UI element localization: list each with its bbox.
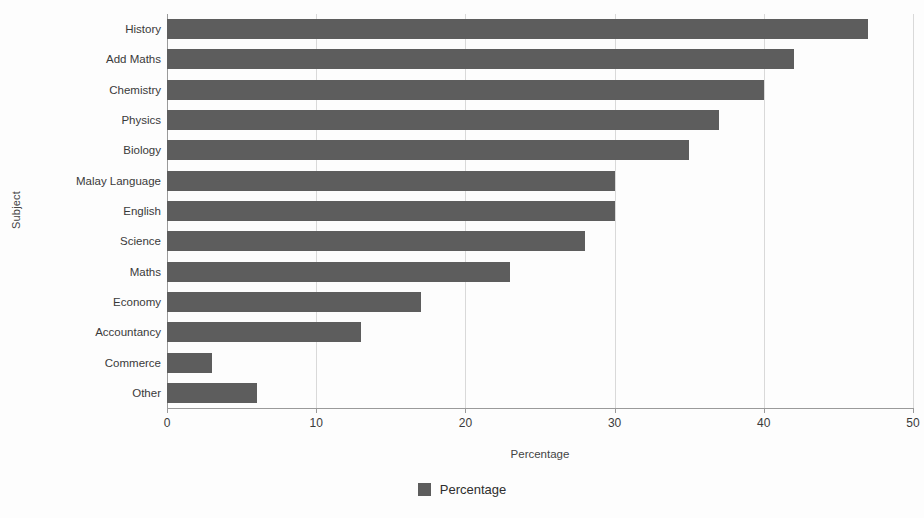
chart-legend: Percentage	[0, 482, 924, 497]
x-axis-title: Percentage	[167, 448, 913, 460]
x-tick-label: 0	[164, 416, 171, 430]
gridline-50	[913, 14, 914, 408]
bar-commerce[interactable]	[167, 353, 913, 373]
y-axis-label-history: History	[28, 23, 161, 35]
y-axis-label-malay-language: Malay Language	[28, 175, 161, 187]
y-axis-label-biology: Biology	[28, 144, 161, 156]
x-tick-mark	[167, 408, 168, 413]
bar-fill	[167, 19, 868, 39]
bar-english[interactable]	[167, 201, 913, 221]
bar-fill	[167, 201, 615, 221]
y-axis-label-english: English	[28, 205, 161, 217]
y-axis-label-economy: Economy	[28, 296, 161, 308]
y-axis-label-science: Science	[28, 235, 161, 247]
bar-series	[167, 14, 913, 408]
x-tick-label: 30	[608, 416, 621, 430]
x-tick-label: 50	[906, 416, 919, 430]
bar-malay-language[interactable]	[167, 171, 913, 191]
y-axis-label-add-maths: Add Maths	[28, 53, 161, 65]
y-axis-label-chemistry: Chemistry	[28, 84, 161, 96]
y-axis-label-physics: Physics	[28, 114, 161, 126]
bar-fill	[167, 292, 421, 312]
x-tick-mark	[316, 408, 317, 413]
y-axis-label-maths: Maths	[28, 266, 161, 278]
bar-maths[interactable]	[167, 262, 913, 282]
bar-fill	[167, 231, 585, 251]
bar-physics[interactable]	[167, 110, 913, 130]
bar-fill	[167, 262, 510, 282]
x-tick-mark	[913, 408, 914, 413]
bar-accountancy[interactable]	[167, 322, 913, 342]
bar-chemistry[interactable]	[167, 80, 913, 100]
x-axis-ticks: 01020304050	[167, 408, 913, 438]
bar-fill	[167, 353, 212, 373]
x-tick-mark	[465, 408, 466, 413]
legend-swatch-percentage	[418, 483, 431, 496]
x-tick-label: 20	[459, 416, 472, 430]
bar-fill	[167, 110, 719, 130]
x-tick-mark	[764, 408, 765, 413]
bar-fill	[167, 322, 361, 342]
x-tick-label: 40	[757, 416, 770, 430]
bar-history[interactable]	[167, 19, 913, 39]
legend-label-percentage: Percentage	[440, 482, 507, 497]
y-axis-label-commerce: Commerce	[28, 357, 161, 369]
bar-add-maths[interactable]	[167, 49, 913, 69]
y-axis-tick-labels: HistoryAdd MathsChemistryPhysicsBiologyM…	[28, 14, 161, 408]
plot-area	[167, 14, 913, 408]
bar-science[interactable]	[167, 231, 913, 251]
bar-chart: Subject HistoryAdd MathsChemistryPhysics…	[0, 0, 924, 518]
x-tick-mark	[615, 408, 616, 413]
bar-fill	[167, 49, 794, 69]
bar-economy[interactable]	[167, 292, 913, 312]
bar-fill	[167, 171, 615, 191]
x-tick-label: 10	[310, 416, 323, 430]
y-axis-title: Subject	[4, 0, 28, 420]
bar-biology[interactable]	[167, 140, 913, 160]
y-axis-label-accountancy: Accountancy	[28, 326, 161, 338]
y-axis-title-text: Subject	[10, 191, 22, 229]
bar-fill	[167, 80, 764, 100]
bar-fill	[167, 383, 257, 403]
y-axis-label-other: Other	[28, 387, 161, 399]
bar-other[interactable]	[167, 383, 913, 403]
bar-fill	[167, 140, 689, 160]
